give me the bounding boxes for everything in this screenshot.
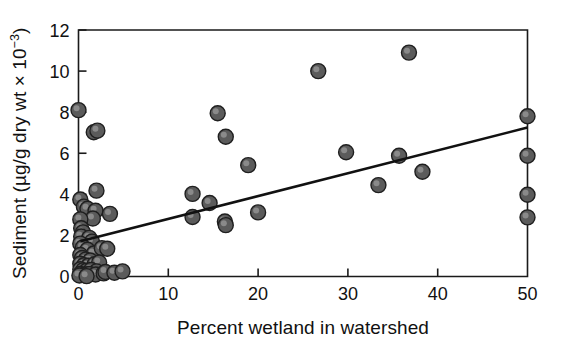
y-tick-label-4: 4 bbox=[59, 185, 69, 205]
chart-background bbox=[0, 0, 565, 348]
data-point bbox=[89, 183, 104, 198]
data-point bbox=[520, 187, 535, 202]
x-tick-label-40: 40 bbox=[428, 284, 448, 304]
y-tick-label-0: 0 bbox=[59, 267, 69, 287]
x-tick-label-50: 50 bbox=[517, 284, 537, 304]
x-tick-label-20: 20 bbox=[248, 284, 268, 304]
data-point bbox=[218, 129, 233, 144]
x-axis-title: Percent wetland in watershed bbox=[177, 317, 429, 338]
data-point bbox=[520, 148, 535, 163]
x-tick-label-10: 10 bbox=[158, 284, 178, 304]
data-point bbox=[241, 158, 256, 173]
y-tick-label-12: 12 bbox=[49, 21, 69, 41]
chart-canvas: 024681012 01020304050 Percent wetland in… bbox=[0, 0, 565, 348]
data-point bbox=[185, 186, 200, 201]
data-point bbox=[218, 218, 233, 233]
data-point bbox=[210, 106, 225, 121]
data-point bbox=[71, 103, 86, 118]
y-tick-label-8: 8 bbox=[59, 103, 69, 123]
data-point bbox=[100, 241, 115, 256]
data-point bbox=[415, 164, 430, 179]
x-tick-label-0: 0 bbox=[73, 284, 83, 304]
y-axis-title: Sediment (µg/g dry wt × 10−3) bbox=[8, 28, 30, 279]
data-point bbox=[339, 145, 354, 160]
y-tick-label-10: 10 bbox=[49, 62, 69, 82]
data-point bbox=[115, 264, 130, 279]
data-point bbox=[102, 206, 117, 221]
data-point bbox=[520, 210, 535, 225]
data-point bbox=[311, 64, 326, 79]
data-point bbox=[520, 109, 535, 124]
x-tick-label-30: 30 bbox=[338, 284, 358, 304]
data-point bbox=[79, 269, 94, 284]
data-point bbox=[90, 123, 105, 138]
y-tick-label-6: 6 bbox=[59, 144, 69, 164]
scatter-plot-figure: 024681012 01020304050 Percent wetland in… bbox=[0, 0, 565, 348]
data-point bbox=[401, 45, 416, 60]
data-point bbox=[371, 178, 386, 193]
y-tick-label-2: 2 bbox=[59, 226, 69, 246]
data-point bbox=[251, 205, 266, 220]
